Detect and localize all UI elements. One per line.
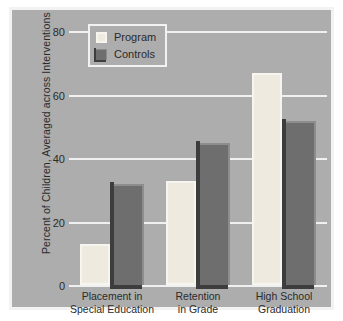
x-axis-tick-placement-line1: Placement in	[69, 290, 155, 303]
y-axis-tick-60: 60	[53, 90, 65, 102]
plot-area: 0 20 40 60 80	[69, 32, 327, 286]
bar-group-graduation	[252, 32, 316, 285]
bar-groups	[69, 32, 327, 285]
chart-legend: Program Controls	[88, 24, 167, 67]
bar-controls-graduation[interactable]	[286, 121, 316, 285]
bar-program-placement[interactable]	[80, 244, 110, 285]
y-axis-tick-20: 20	[53, 217, 65, 229]
bar-group-retention	[166, 32, 230, 285]
legend-item-controls[interactable]: Controls	[96, 48, 156, 60]
x-axis-tick-retention-line2: in Grade	[155, 303, 241, 316]
x-axis-tick-graduation-line1: High School	[241, 290, 327, 303]
legend-label-program: Program	[114, 31, 156, 43]
chart-panel: Percent of Children, Averaged across Int…	[9, 7, 334, 310]
bar-program-graduation[interactable]	[252, 73, 282, 285]
legend-swatch-controls-icon	[96, 49, 107, 60]
legend-item-program[interactable]: Program	[96, 31, 156, 43]
x-axis-labels: Placement in Special Education Retention…	[69, 290, 327, 315]
y-axis-label: Percent of Children, Averaged across Int…	[40, 14, 52, 254]
legend-swatch-program-icon	[96, 32, 107, 43]
bar-program-retention[interactable]	[166, 181, 196, 285]
x-axis-tick-graduation-line2: Graduation	[241, 303, 327, 316]
bar-group-placement	[80, 32, 144, 285]
legend-label-controls: Controls	[114, 48, 155, 60]
x-axis-tick-graduation: High School Graduation	[241, 290, 327, 315]
bar-controls-retention[interactable]	[200, 143, 230, 285]
bar-chart-figure: Percent of Children, Averaged across Int…	[0, 0, 343, 321]
y-axis-tick-80: 80	[53, 26, 65, 38]
x-axis-tick-placement: Placement in Special Education	[69, 290, 155, 315]
bar-controls-placement[interactable]	[114, 184, 144, 285]
y-axis-tick-0: 0	[59, 280, 65, 292]
x-axis-tick-placement-line2: Special Education	[69, 303, 155, 316]
x-axis-tick-retention-line1: Retention	[155, 290, 241, 303]
x-axis-tick-retention: Retention in Grade	[155, 290, 241, 315]
y-axis-tick-40: 40	[53, 153, 65, 165]
